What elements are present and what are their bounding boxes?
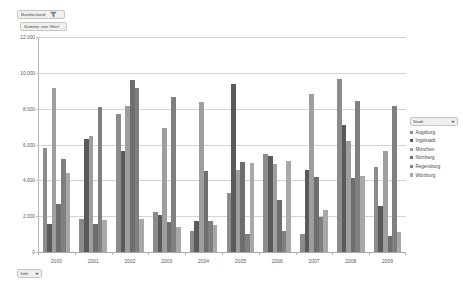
pivot-axis-button-jahr[interactable]: Jahr: [17, 269, 42, 278]
chevron-down-icon[interactable]: [35, 273, 39, 275]
x-axis-tick-label: 2000: [38, 258, 75, 264]
legend-item-label: Regensburg: [415, 164, 440, 169]
bar-group-bars: [112, 37, 149, 252]
x-axis-tick-mark: [332, 252, 333, 255]
bar-group-2007: 2007: [296, 37, 333, 252]
y-axis-tick-label: 2.000: [23, 214, 35, 219]
bar-group-bars: [185, 37, 222, 252]
legend-swatch-icon: [410, 173, 413, 176]
y-axis-tick-label: 0: [32, 250, 35, 255]
y-axis-tick-label: 8.000: [23, 106, 35, 111]
x-axis-tick-label: 2001: [75, 258, 112, 264]
legend-filter-label: Stadt: [413, 117, 423, 126]
pivot-chart: 02.0004.0006.0008.00010.00012.0002000200…: [0, 0, 463, 286]
x-axis-tick-mark: [75, 252, 76, 255]
legend-item-label: Ingolstadt: [415, 138, 435, 143]
legend-swatch-icon: [410, 131, 413, 134]
pivot-field-buttons: Bundesland Summe von Wert: [17, 10, 67, 31]
pivot-filter-button-label: Bundesland: [21, 10, 45, 19]
x-axis-tick-mark: [38, 252, 39, 255]
bar-Würzburg-2008[interactable]: [360, 176, 365, 252]
legend-swatch-icon: [410, 156, 413, 159]
legend-swatch-icon: [410, 165, 413, 168]
x-axis-tick-label: 2002: [112, 258, 149, 264]
bar-group-2003: 2003: [148, 37, 185, 252]
bar-group-bars: [38, 37, 75, 252]
bar-group-2009: 2009: [369, 37, 406, 252]
bar-Würzburg-2004[interactable]: [213, 225, 218, 252]
filter-icon[interactable]: [50, 11, 57, 18]
bar-Würzburg-2002[interactable]: [139, 219, 144, 252]
bar-Würzburg-2001[interactable]: [102, 220, 107, 252]
legend-item-Würzburg[interactable]: Würzburg: [410, 173, 458, 178]
x-axis-tick-label: 2006: [259, 258, 296, 264]
y-axis-tick-label: 4.000: [23, 178, 35, 183]
bar-Würzburg-2007[interactable]: [323, 210, 328, 252]
legend-item-Ingolstadt[interactable]: Ingolstadt: [410, 138, 458, 143]
x-axis-tick-mark: [296, 252, 297, 255]
x-axis-tick-mark: [259, 252, 260, 255]
bar-group-2008: 2008: [332, 37, 369, 252]
legend-item-label: Augsburg: [415, 130, 435, 135]
pivot-filter-button-bundesland[interactable]: Bundesland: [17, 10, 65, 19]
x-axis-tick-mark: [148, 252, 149, 255]
y-axis-tick-label: 12.000: [20, 35, 35, 40]
legend-swatch-icon: [410, 139, 413, 142]
x-axis-tick-mark: [369, 252, 370, 255]
legend-item-Nürnberg[interactable]: Nürnberg: [410, 155, 458, 160]
bar-group-2002: 2002: [112, 37, 149, 252]
bar-group-bars: [369, 37, 406, 252]
legend-item-label: Würzburg: [415, 173, 435, 178]
legend-item-label: München: [415, 147, 434, 152]
bar-group-bars: [296, 37, 333, 252]
pivot-value-button-summe-von-wert[interactable]: Summe von Wert: [20, 22, 67, 31]
bar-Würzburg-2005[interactable]: [250, 163, 255, 252]
x-axis-tick-mark: [222, 252, 223, 255]
legend-item-label: Nürnberg: [415, 155, 434, 160]
bar-Würzburg-2000[interactable]: [66, 173, 71, 252]
x-axis-tick-label: 2005: [222, 258, 259, 264]
x-axis-tick-mark: [185, 252, 186, 255]
legend-item-Regensburg[interactable]: Regensburg: [410, 164, 458, 169]
bar-group-2004: 2004: [185, 37, 222, 252]
legend-item-Augsburg[interactable]: Augsburg: [410, 130, 458, 135]
bar-group-bars: [332, 37, 369, 252]
x-axis-tick-mark: [112, 252, 113, 255]
x-axis-tick-label: 2009: [369, 258, 406, 264]
y-axis-tick-label: 6.000: [23, 142, 35, 147]
bar-group-bars: [148, 37, 185, 252]
pivot-value-button-label: Summe von Wert: [24, 22, 59, 31]
x-axis-tick-label: 2008: [332, 258, 369, 264]
chart-legend: Stadt AugsburgIngolstadtMünchenNürnbergR…: [410, 117, 458, 178]
x-axis-tick-mark: [405, 252, 406, 255]
bar-group-2000: 2000: [38, 37, 75, 252]
x-axis-tick-label: 2007: [296, 258, 333, 264]
pivot-axis-button-label: Jahr: [20, 269, 29, 278]
bar-Regensburg-2009[interactable]: [392, 106, 397, 252]
x-axis-tick-label: 2004: [185, 258, 222, 264]
bar-Würzburg-2003[interactable]: [176, 227, 181, 252]
bar-group-2001: 2001: [75, 37, 112, 252]
y-axis-tick-label: 10.000: [20, 70, 35, 75]
bar-group-2006: 2006: [259, 37, 296, 252]
bar-group-2005: 2005: [222, 37, 259, 252]
bar-group-bars: [75, 37, 112, 252]
chevron-down-icon[interactable]: [451, 121, 455, 123]
bar-group-bars: [222, 37, 259, 252]
bar-Würzburg-2009[interactable]: [397, 232, 402, 252]
chart-plot-area: 02.0004.0006.0008.00010.00012.0002000200…: [38, 37, 406, 253]
legend-item-München[interactable]: München: [410, 147, 458, 152]
bar-group-bars: [259, 37, 296, 252]
x-axis-tick-label: 2003: [148, 258, 185, 264]
legend-filter-button-stadt[interactable]: Stadt: [410, 117, 458, 126]
legend-swatch-icon: [410, 148, 413, 151]
bar-Würzburg-2006[interactable]: [286, 161, 291, 252]
